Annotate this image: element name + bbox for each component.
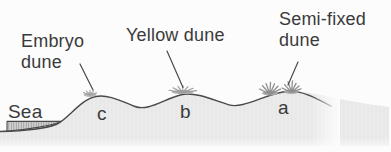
embryo-tuft-icon [84, 90, 97, 97]
grass-tuft-left-icon [260, 82, 281, 95]
dune-succession-diagram: Embryo dune Yellow dune Semi-fixed dune … [0, 0, 391, 152]
label-embryo-dune: Embryo dune [21, 31, 101, 73]
marker-b: b [180, 102, 191, 121]
label-sea: Sea [8, 101, 42, 122]
label-semi-fixed-dune: Semi-fixed dune [279, 9, 373, 51]
marker-a: a [278, 98, 289, 117]
label-yellow-dune: Yellow dune [126, 25, 225, 46]
bottom-edge-fade [0, 137, 391, 152]
grass-tuft-right-icon [282, 81, 301, 94]
leader-lines [80, 51, 298, 90]
yellow-dune-leader-line [167, 51, 183, 88]
marker-c: c [97, 104, 107, 123]
